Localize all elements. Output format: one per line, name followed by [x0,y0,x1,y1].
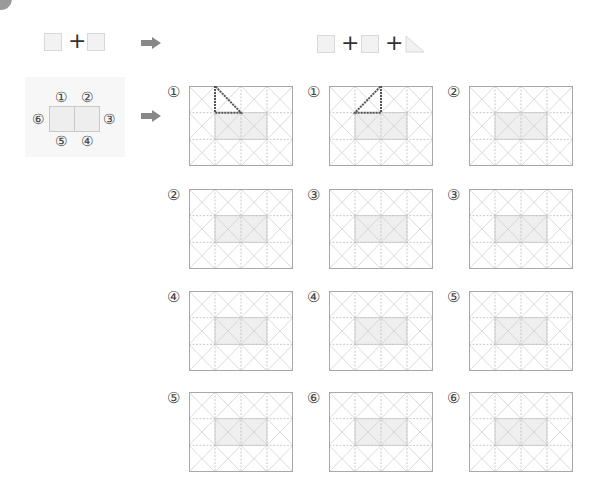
net-square-left [49,106,75,132]
answer-grid [189,189,293,269]
net-square-right [74,106,100,132]
right-arrow-icon [141,37,161,49]
panel-label: ③ [307,188,320,203]
answer-grid [329,86,433,166]
edge-label-1: ① [55,90,68,104]
answer-grid [329,392,433,472]
square-shape-icon [87,33,105,51]
edge-label-3: ③ [103,112,116,126]
panel-label: ① [307,85,320,100]
panel-label: ③ [447,188,460,203]
plus-sign: + [385,34,403,52]
edge-label-4: ④ [81,134,94,148]
panel-label: ② [447,85,460,100]
square-shape-icon [317,35,335,53]
answer-grid [469,392,573,472]
plus-sign: + [341,34,359,52]
answer-grid [189,392,293,472]
answer-grid [469,291,573,371]
answer-grid [329,291,433,371]
answer-grid [189,291,293,371]
answer-grid [189,86,293,166]
plus-sign: + [68,32,86,50]
panel-label: ④ [167,290,180,305]
panel-label: ④ [307,290,320,305]
edge-label-2: ② [81,90,94,104]
answer-grid [329,189,433,269]
panel-label: ⑤ [167,391,180,406]
square-shape-icon [361,35,379,53]
triangle-shape-icon [405,35,425,53]
edge-label-5: ⑤ [55,134,68,148]
right-arrow-icon [141,110,161,122]
panel-label: ⑥ [447,391,460,406]
answer-grid [469,189,573,269]
panel-label: ① [167,85,180,100]
panel-label: ⑤ [447,290,460,305]
panel-label: ② [167,188,180,203]
section-bullet-icon [0,0,12,10]
panel-label: ⑥ [307,391,320,406]
answer-grid [469,86,573,166]
edge-label-6: ⑥ [32,112,45,126]
square-shape-icon [44,33,62,51]
